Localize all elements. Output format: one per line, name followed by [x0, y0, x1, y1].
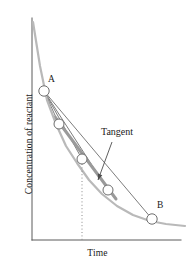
data-point-marker-p2 [54, 119, 64, 129]
x-axis-label: Time [0, 248, 195, 258]
data-point-marker-p4 [103, 185, 113, 195]
point-label-a: A [48, 74, 55, 84]
data-point-marker-b [147, 214, 157, 224]
point-label-b: B [157, 200, 163, 210]
data-point-marker-a [39, 86, 49, 96]
reaction-rate-figure: A B Tangent Concentration of reactant Ti… [0, 0, 195, 271]
tangent-annotation-label: Tangent [101, 126, 133, 137]
tangent-leader-line [98, 142, 112, 180]
data-point-marker-p3 [77, 154, 87, 164]
chord-A-to-B [44, 91, 152, 219]
y-axis-label: Concentration of reactant [24, 64, 34, 224]
secant-lines-group [44, 91, 152, 219]
